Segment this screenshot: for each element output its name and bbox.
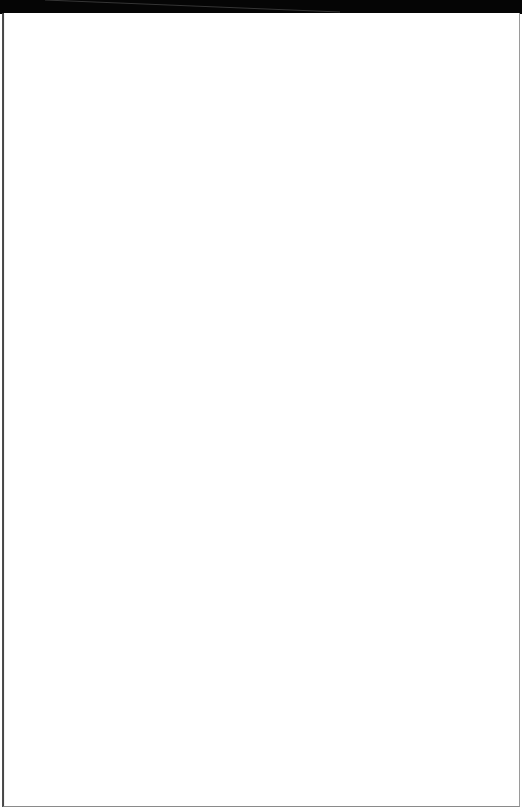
- blank-page: [2, 13, 520, 807]
- scanned-document: [0, 0, 522, 809]
- page-left-edge-shadow: [2, 14, 5, 806]
- scanner-edge-line: [0, 0, 522, 14]
